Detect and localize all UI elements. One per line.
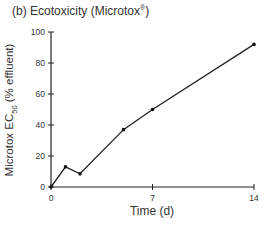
y-tick-label: 0: [40, 182, 45, 192]
x-tick-label: 14: [249, 193, 259, 203]
y-tick-label: 40: [36, 120, 46, 130]
y-tick-label: 60: [36, 89, 46, 99]
x-tick-label: 0: [49, 193, 54, 203]
y-tick-label: 100: [31, 27, 45, 37]
y-tick-label: 20: [36, 151, 46, 161]
y-tick-label: 80: [36, 58, 46, 68]
x-tick-label: 7: [150, 193, 155, 203]
data-point-marker: [122, 128, 126, 132]
data-point-marker: [78, 172, 82, 176]
line-chart: 0204060801000714: [0, 0, 272, 228]
data-point-marker: [252, 43, 256, 47]
data-line: [51, 44, 254, 187]
data-point-marker: [151, 108, 155, 112]
data-series: [49, 43, 256, 189]
data-point-marker: [64, 165, 68, 169]
data-point-marker: [49, 185, 53, 189]
